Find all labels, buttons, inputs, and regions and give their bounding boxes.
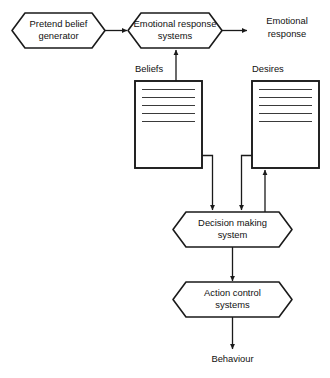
decision-making-system-label-line1: Decision making [198,217,267,228]
beliefs-store-caption: Beliefs [135,63,163,74]
pretend-belief-generator-label-line2: generator [38,30,78,41]
emotional-response-output-line1: Emotional [266,15,308,26]
emotional-response-systems-label-line1: Emotional response [134,18,217,29]
flow-diagram: Pretend belief generator Emotional respo… [0,0,330,378]
decision-making-system-label-line2: system [218,229,248,240]
desires-store-caption: Desires [252,63,284,74]
edge-desires-to-decision [242,156,253,211]
diagram-canvas: Pretend belief generator Emotional respo… [0,0,330,378]
node-beliefs-store[interactable] [135,81,202,168]
action-control-systems-label-line2: systems [215,299,250,310]
pretend-belief-generator-label-line1: Pretend belief [30,18,88,29]
behaviour-output-label: Behaviour [211,353,253,364]
emotional-response-output-line2: response [268,28,307,39]
node-desires-store[interactable] [252,81,319,168]
emotional-response-systems-label-line2: systems [158,30,193,41]
edge-beliefs-to-decision [202,156,213,211]
action-control-systems-label-line1: Action control [204,287,261,298]
